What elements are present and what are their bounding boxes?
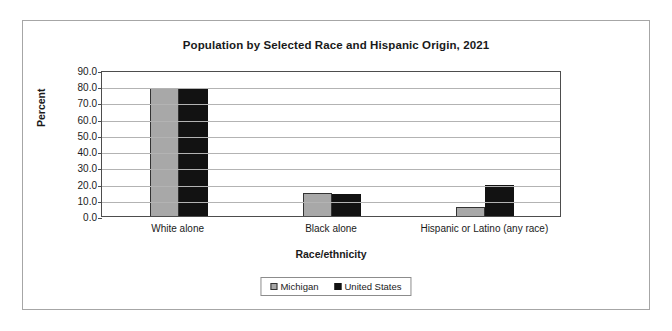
x-axis-category-labels: White aloneBlack aloneHispanic or Latino… <box>101 223 561 239</box>
y-axis-tick-mark <box>98 72 102 73</box>
x-axis-category-label: Hispanic or Latino (any race) <box>420 223 548 234</box>
y-axis-tick-label: 60.0 <box>53 114 97 125</box>
y-axis-tick-mark <box>98 169 102 170</box>
y-axis-tick-label: 0.0 <box>53 212 97 223</box>
plot-area <box>101 71 561 217</box>
y-axis-tick-mark <box>98 202 102 203</box>
gridline <box>102 88 560 89</box>
gridline <box>102 121 560 122</box>
gridline <box>102 202 560 203</box>
y-axis-tick-mark <box>98 88 102 89</box>
gridline <box>102 186 560 187</box>
legend-label: Michigan <box>280 281 318 292</box>
y-axis-tick-label: 40.0 <box>53 147 97 158</box>
y-axis-tick-mark <box>98 218 102 219</box>
y-axis-tick-mark <box>98 153 102 154</box>
gridline <box>102 104 560 105</box>
bar-group <box>409 72 562 216</box>
legend-item[interactable]: United States <box>334 281 401 292</box>
y-axis-tick-label: 80.0 <box>53 82 97 93</box>
y-axis-title: Percent <box>35 88 47 127</box>
x-axis-title: Race/ethnicity <box>101 248 561 260</box>
chart-frame: Population by Selected Race and Hispanic… <box>22 20 650 310</box>
y-axis-tick-label: 50.0 <box>53 130 97 141</box>
bar-united-states[interactable] <box>332 194 361 216</box>
chart-title: Population by Selected Race and Hispanic… <box>23 39 649 51</box>
bars-layer <box>102 72 560 216</box>
gridline <box>102 137 560 138</box>
x-axis-category-label: White alone <box>151 223 204 234</box>
bar-michigan[interactable] <box>303 193 332 216</box>
gridline <box>102 169 560 170</box>
y-axis-tick-labels: 90.080.070.060.050.040.030.020.010.00.0 <box>53 71 97 217</box>
bar-michigan[interactable] <box>456 207 485 216</box>
legend-label: United States <box>344 281 401 292</box>
legend-item[interactable]: Michigan <box>270 281 318 292</box>
y-axis-tick-mark <box>98 137 102 138</box>
y-axis-tick-mark <box>98 104 102 105</box>
bar-group <box>102 72 255 216</box>
bar-group <box>255 72 408 216</box>
legend-swatch-us <box>334 283 341 290</box>
x-axis-category-label: Black alone <box>305 223 357 234</box>
y-axis-tick-mark <box>98 186 102 187</box>
chart-legend: MichiganUnited States <box>260 277 411 296</box>
y-axis-tick-mark <box>98 121 102 122</box>
y-axis-tick-label: 30.0 <box>53 163 97 174</box>
bar-michigan[interactable] <box>150 88 179 216</box>
bar-united-states[interactable] <box>485 185 514 216</box>
y-axis-tick-label: 90.0 <box>53 66 97 77</box>
y-axis-tick-label: 20.0 <box>53 179 97 190</box>
y-axis-tick-label: 10.0 <box>53 195 97 206</box>
gridline <box>102 153 560 154</box>
y-axis-tick-label: 70.0 <box>53 98 97 109</box>
legend-swatch-michigan <box>270 283 277 290</box>
